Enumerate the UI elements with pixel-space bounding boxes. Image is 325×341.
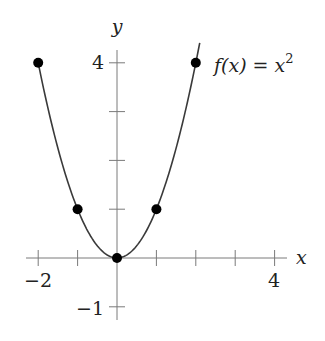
function-label: f(x) = x2 [212, 51, 294, 76]
function-label-exponent: 2 [285, 51, 293, 66]
data-point [33, 58, 43, 68]
data-point [112, 253, 122, 263]
x-tick-label-4: 4 [268, 269, 280, 291]
x-axis-label: x [296, 246, 307, 268]
data-point [151, 204, 161, 214]
x-tick-label-neg2: −2 [24, 269, 52, 291]
function-label-lhs: f(x) = x [212, 54, 286, 76]
y-tick-label-4: 4 [92, 51, 104, 73]
function-curve [38, 43, 200, 258]
data-point [73, 204, 83, 214]
parabola-chart: y x −2 4 4 −1 f(x) = x2 [0, 0, 325, 341]
y-tick-label-neg1: −1 [76, 297, 104, 319]
data-point [191, 58, 201, 68]
y-axis-label: y [111, 15, 123, 37]
